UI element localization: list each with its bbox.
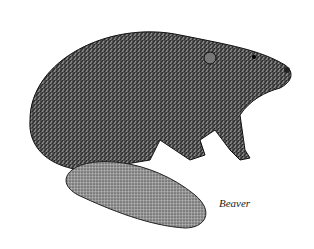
beaver-tail — [66, 162, 206, 228]
beaver-eye — [252, 55, 256, 59]
beaver-illustration — [0, 0, 314, 249]
beaver-ear — [204, 52, 216, 64]
caption: Beaver — [219, 197, 250, 209]
illustration-canvas: Beaver — [0, 0, 314, 249]
beaver-body — [30, 32, 291, 170]
